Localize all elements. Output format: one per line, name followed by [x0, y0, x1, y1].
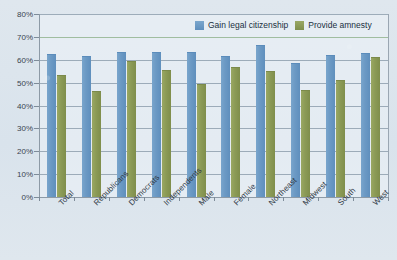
bar-provide-amnesty	[231, 67, 240, 197]
x-tick-mark	[109, 197, 110, 201]
x-tick-mark	[248, 197, 249, 201]
y-tick-label-10: 10%	[3, 170, 33, 179]
bar-provide-amnesty	[57, 75, 66, 197]
bar-gain-legal-citizenship	[47, 54, 56, 197]
bar-group	[214, 14, 249, 197]
legend-label-series-1: Provide amnesty	[308, 20, 371, 30]
y-tick-label-60: 60%	[3, 55, 33, 64]
x-tick-mark	[179, 197, 180, 201]
bar-group	[248, 14, 283, 197]
bar-group	[74, 14, 109, 197]
y-tick-label-50: 50%	[3, 78, 33, 87]
y-tick-label-80: 80%	[3, 10, 33, 19]
bar-gain-legal-citizenship	[326, 55, 335, 197]
y-tick-label-0: 0%	[3, 193, 33, 202]
bar-group	[109, 14, 144, 197]
x-tick-mark	[74, 197, 75, 201]
bar-chart: 0%10%20%30%40%50%60%70%80% TotalRepublic…	[0, 0, 397, 260]
bar-gain-legal-citizenship	[256, 45, 265, 197]
plot-right-edge	[388, 14, 389, 198]
y-tick-label-70: 70%	[3, 32, 33, 41]
bar-group	[318, 14, 353, 197]
bars-layer	[39, 14, 388, 197]
legend-item-provide-amnesty: Provide amnesty	[295, 20, 371, 30]
x-tick-mark	[283, 197, 284, 201]
blue-swatch-icon	[195, 21, 204, 30]
chart-legend: Gain legal citizenship Provide amnesty	[192, 18, 375, 32]
legend-item-gain-legal-citizenship: Gain legal citizenship	[195, 20, 288, 30]
y-tick-label-20: 20%	[3, 147, 33, 156]
bar-group	[144, 14, 179, 197]
bar-group	[39, 14, 74, 197]
bar-group	[283, 14, 318, 197]
y-tick-label-30: 30%	[3, 124, 33, 133]
x-tick-mark	[353, 197, 354, 201]
x-tick-mark	[388, 197, 389, 201]
x-tick-mark	[144, 197, 145, 201]
x-tick-mark	[318, 197, 319, 201]
x-tick-mark	[39, 197, 40, 201]
bar-provide-amnesty	[336, 80, 345, 197]
bar-group	[353, 14, 388, 197]
bar-provide-amnesty	[301, 90, 310, 198]
bar-provide-amnesty	[371, 57, 380, 197]
bar-gain-legal-citizenship	[82, 56, 91, 197]
green-swatch-icon	[295, 21, 304, 30]
bar-provide-amnesty	[162, 70, 171, 197]
legend-label-series-0: Gain legal citizenship	[208, 20, 288, 30]
bar-provide-amnesty	[197, 84, 206, 197]
bar-provide-amnesty	[266, 71, 275, 197]
x-tick-mark	[214, 197, 215, 201]
y-tick-label-40: 40%	[3, 101, 33, 110]
bar-gain-legal-citizenship	[221, 56, 230, 197]
bar-provide-amnesty	[92, 91, 101, 197]
bar-gain-legal-citizenship	[361, 53, 370, 197]
